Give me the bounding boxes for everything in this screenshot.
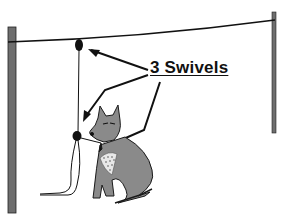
swivels-label: 3 Swivels [150,58,228,78]
arrow-to-top-swivel [91,50,148,70]
right-post [272,12,276,133]
left-post [8,27,16,213]
dog-run-diagram: 3 Swivels [0,0,287,222]
swivel-middle-icon [73,131,82,141]
diagram-illustration [0,0,287,222]
overhead-cable [8,20,275,42]
trolley-line [40,50,79,194]
swivel-top-icon [75,39,83,51]
dog-icon [90,105,153,203]
